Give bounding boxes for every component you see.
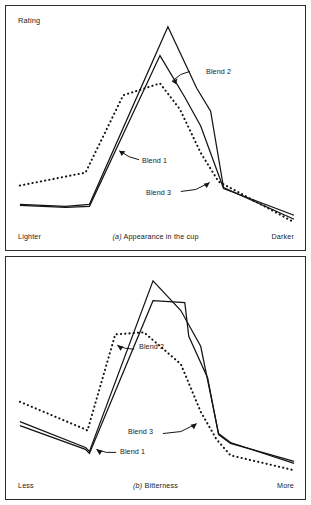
- series-label-blend-1: Blend 1: [120, 447, 145, 456]
- series-label-blend-3: Blend 3: [128, 427, 153, 436]
- figure-container: Rating Blend 2: [0, 0, 311, 505]
- chart-b-caption: (b) Bitterness: [133, 481, 178, 490]
- annotation-leader-blend-2: [172, 71, 190, 84]
- series-label-blend-2: Blend 2: [206, 67, 231, 76]
- chart-a-plot-area: [6, 6, 305, 250]
- chart-a-caption-prefix: (a): [112, 232, 121, 241]
- chart-a-caption-text: Appearance in the cup: [122, 232, 199, 241]
- annotation-leader-blend-2: [117, 345, 134, 351]
- chart-panel-appearance: Rating Blend 2: [5, 5, 306, 251]
- chart-b-caption-text: Bitterness: [142, 481, 178, 490]
- annotation-leader-blend-1: [96, 449, 116, 455]
- chart-a-caption: (a) Appearance in the cup: [112, 232, 198, 241]
- chart-panel-bitterness: Blend 2 Blend 3 Blend 1 Less (b) Bittern…: [5, 256, 306, 500]
- axis-label-lighter: Lighter: [18, 232, 41, 241]
- chart-b-plot-area: [6, 257, 305, 499]
- annotation-leader-blend-3: [181, 183, 210, 192]
- axis-label-darker: Darker: [272, 232, 294, 241]
- axis-label-less: Less: [18, 481, 34, 490]
- annotation-leader-blend-3: [163, 424, 197, 434]
- chart-b-caption-prefix: (b): [133, 481, 142, 490]
- series-line-blend-1: [20, 281, 294, 463]
- series-label-blend-2: Blend 2: [139, 342, 164, 351]
- series-label-blend-3: Blend 3: [146, 188, 171, 197]
- series-label-blend-1: Blend 1: [142, 156, 167, 165]
- annotation-leader-blend-1: [119, 151, 139, 160]
- axis-label-more: More: [277, 481, 294, 490]
